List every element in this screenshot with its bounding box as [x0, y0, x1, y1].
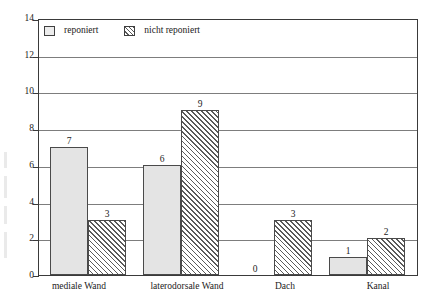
scan-artifact: [4, 176, 7, 198]
x-tick-label-kanal: Kanal: [318, 281, 437, 291]
y-tick-label: 2: [10, 234, 34, 244]
y-tick-label: 0: [10, 271, 34, 281]
y-tick-mark: [33, 93, 39, 94]
gridline-4: [39, 204, 417, 205]
plot-area: 7 3 6 9 0 3 1 2: [38, 19, 418, 276]
scan-artifact: [4, 206, 7, 224]
bar-value-label: 9: [181, 100, 219, 110]
legend-label: reponiert: [64, 26, 98, 36]
gridline-8: [39, 130, 417, 131]
y-tick-label: 10: [10, 87, 34, 97]
legend: reponiert nicht reponiert: [44, 26, 200, 36]
gridline-12: [39, 57, 417, 58]
bar-nicht-reponiert-dach: [274, 220, 312, 275]
legend-entry-nicht-reponiert: nicht reponiert: [124, 26, 200, 36]
bar-value-label: 3: [274, 210, 312, 220]
gridline-6: [39, 167, 417, 168]
bar-value-label: 2: [367, 228, 405, 238]
y-tick-mark: [33, 57, 39, 58]
bar-nicht-reponiert-mediale-wand: [88, 220, 126, 275]
y-tick-mark: [33, 204, 39, 205]
y-tick-mark: [33, 240, 39, 241]
hatched-swatch-icon: [124, 26, 135, 36]
bar-nicht-reponiert-kanal: [367, 238, 405, 275]
bar-chart: 14 12 10 8 6 4 2 0 7: [0, 0, 437, 302]
y-tick-label: 12: [10, 51, 34, 61]
bar-value-label: 0: [236, 265, 274, 275]
y-tick-label: 4: [10, 198, 34, 208]
scan-artifact: [4, 232, 7, 258]
solid-swatch-icon: [44, 26, 55, 36]
y-tick-mark: [33, 130, 39, 131]
legend-label: nicht reponiert: [144, 26, 200, 36]
bar-reponiert-kanal: [329, 257, 367, 275]
bar-nicht-reponiert-laterodorsale-wand: [181, 110, 219, 275]
x-tick-label-mediale-wand: mediale Wand: [19, 281, 139, 291]
bar-value-label: 1: [329, 247, 367, 257]
y-tick-mark: [33, 276, 39, 277]
legend-entry-reponiert: reponiert: [44, 26, 98, 36]
bar-value-label: 3: [88, 210, 126, 220]
bar-reponiert-laterodorsale-wand: [143, 165, 181, 275]
bar-reponiert-mediale-wand: [50, 147, 88, 276]
bar-value-label: 7: [50, 137, 88, 147]
y-tick-label: 14: [10, 14, 34, 24]
y-tick-label: 6: [10, 161, 34, 171]
bar-value-label: 6: [143, 155, 181, 165]
scan-artifact: [4, 152, 7, 168]
y-tick-label: 8: [10, 124, 34, 134]
y-tick-mark: [33, 20, 39, 21]
y-tick-mark: [33, 167, 39, 168]
gridline-10: [39, 93, 417, 94]
